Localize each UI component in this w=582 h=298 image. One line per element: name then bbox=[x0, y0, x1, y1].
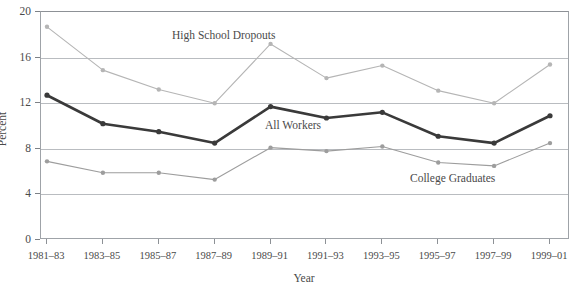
data-point bbox=[45, 159, 49, 163]
series-label-all-workers: All Workers bbox=[265, 119, 321, 131]
clipped-title-artifact bbox=[0, 0, 582, 4]
x-tick-label-1: 1983–85 bbox=[84, 250, 121, 261]
data-point bbox=[156, 129, 161, 134]
x-tick-label-5: 1991–93 bbox=[307, 250, 344, 261]
data-point bbox=[212, 141, 217, 146]
data-point bbox=[436, 88, 440, 92]
data-point bbox=[492, 101, 496, 105]
series-label-college-graduates: College Graduates bbox=[410, 172, 495, 184]
x-tick-mark-5 bbox=[325, 239, 326, 244]
data-point bbox=[268, 42, 272, 46]
y-tick-label-4: 4 bbox=[5, 187, 31, 199]
x-tick-label-6: 1993–95 bbox=[363, 250, 400, 261]
data-point bbox=[101, 171, 105, 175]
data-point bbox=[157, 171, 161, 175]
y-tick-label-8: 8 bbox=[5, 142, 31, 154]
y-tick-label-12: 12 bbox=[5, 96, 31, 108]
data-point bbox=[436, 160, 440, 164]
x-tick-mark-7 bbox=[437, 239, 438, 244]
x-tick-label-7: 1995–97 bbox=[419, 250, 456, 261]
data-point bbox=[436, 134, 441, 139]
x-tick-label-2: 1985–87 bbox=[139, 250, 176, 261]
y-tick-label-0: 0 bbox=[5, 233, 31, 245]
data-point bbox=[324, 115, 329, 120]
data-point bbox=[100, 121, 105, 126]
series-line bbox=[47, 27, 550, 103]
x-tick-mark-8 bbox=[493, 239, 494, 244]
data-point bbox=[380, 144, 384, 148]
x-tick-label-0: 1981–83 bbox=[28, 250, 65, 261]
x-tick-mark-6 bbox=[381, 239, 382, 244]
data-point bbox=[44, 93, 49, 98]
x-tick-label-9: 1999–01 bbox=[531, 250, 568, 261]
series-label-high-school-dropouts: High School Dropouts bbox=[172, 29, 276, 41]
data-point bbox=[492, 141, 497, 146]
x-tick-mark-9 bbox=[549, 239, 550, 244]
data-point bbox=[101, 68, 105, 72]
x-tick-mark-4 bbox=[270, 239, 271, 244]
chart-container: Percent Year 048121620 1981–831983–85198… bbox=[0, 0, 582, 298]
x-tick-mark-0 bbox=[46, 239, 47, 244]
x-tick-label-3: 1987–89 bbox=[195, 250, 232, 261]
x-tick-mark-1 bbox=[102, 239, 103, 244]
data-point bbox=[268, 145, 272, 149]
data-point bbox=[212, 101, 216, 105]
x-tick-mark-3 bbox=[214, 239, 215, 244]
data-point bbox=[492, 164, 496, 168]
y-tick-label-20: 20 bbox=[5, 5, 31, 17]
series-high-school-dropouts bbox=[45, 25, 552, 106]
x-tick-label-8: 1997–99 bbox=[475, 250, 512, 261]
data-point bbox=[380, 63, 384, 67]
y-tick-mark-0 bbox=[35, 239, 40, 240]
data-point bbox=[380, 110, 385, 115]
data-point bbox=[547, 113, 552, 118]
data-point bbox=[268, 104, 273, 109]
x-tick-mark-2 bbox=[158, 239, 159, 244]
data-point bbox=[548, 62, 552, 66]
x-axis-title: Year bbox=[293, 272, 314, 284]
data-point bbox=[324, 149, 328, 153]
y-tick-label-16: 16 bbox=[5, 51, 31, 63]
x-tick-label-4: 1989–91 bbox=[251, 250, 288, 261]
data-point bbox=[548, 141, 552, 145]
data-point bbox=[212, 177, 216, 181]
data-point bbox=[45, 25, 49, 29]
data-point bbox=[157, 87, 161, 91]
data-point bbox=[324, 76, 328, 80]
